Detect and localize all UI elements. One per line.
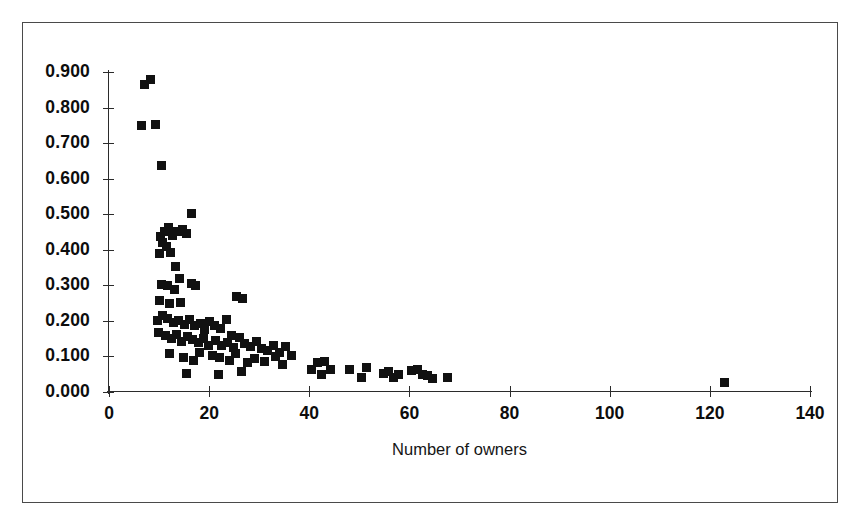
data-point-marker (216, 324, 225, 333)
data-point-marker (428, 374, 437, 383)
x-axis-title: Number of owners (109, 440, 810, 459)
data-point-marker (357, 373, 366, 382)
data-point-marker (287, 351, 296, 360)
x-axis-tick-label: 100 (575, 403, 645, 424)
data-point-marker (231, 349, 240, 358)
data-point-marker (146, 75, 155, 84)
scatter-plot-area (109, 72, 810, 392)
data-point-marker (182, 229, 191, 238)
y-axis-tick-label: 0.500 (24, 203, 90, 224)
data-point-marker (260, 357, 269, 366)
y-axis-tick-label: 0.800 (24, 97, 90, 118)
data-point-marker (195, 348, 204, 357)
data-point-marker (237, 367, 246, 376)
data-point-marker (165, 299, 174, 308)
data-point-marker (187, 209, 196, 218)
chart-figure: 0.0000.1000.2000.3000.4000.5000.6000.700… (0, 0, 856, 525)
x-axis-tick-label: 80 (475, 403, 545, 424)
x-axis-tick-label: 120 (675, 403, 745, 424)
data-point-marker (720, 378, 729, 387)
data-point-marker (170, 285, 179, 294)
data-point-marker (200, 325, 209, 334)
data-point-marker (189, 356, 198, 365)
data-point-marker (191, 281, 200, 290)
data-point-marker (326, 365, 335, 374)
data-point-marker (171, 262, 180, 271)
y-axis-tick-label: 0.600 (24, 168, 90, 189)
y-axis-tick-label: 0.700 (24, 132, 90, 153)
data-point-marker (175, 274, 184, 283)
data-point-marker (182, 369, 191, 378)
data-point-marker (317, 370, 326, 379)
x-axis-tick-label: 40 (274, 403, 344, 424)
data-point-marker (345, 365, 354, 374)
data-point-marker (166, 248, 175, 257)
x-axis-tick-label: 20 (174, 403, 244, 424)
data-point-marker (215, 353, 224, 362)
data-point-marker (137, 121, 146, 130)
data-point-marker (176, 298, 185, 307)
x-axis-tick-label: 0 (74, 403, 144, 424)
y-axis-tick-label: 0.100 (24, 345, 90, 366)
data-point-marker (155, 249, 164, 258)
data-point-marker (443, 373, 452, 382)
x-axis-tick (810, 386, 811, 397)
x-axis-tick-label: 60 (374, 403, 444, 424)
data-point-marker (238, 294, 247, 303)
data-point-marker (394, 370, 403, 379)
y-axis-tick-label: 0.000 (24, 381, 90, 402)
y-axis-tick-label: 0.900 (24, 61, 90, 82)
x-axis-tick-label: 140 (775, 403, 845, 424)
y-axis-tick-label: 0.300 (24, 274, 90, 295)
data-point-marker (155, 296, 164, 305)
data-point-marker (362, 363, 371, 372)
data-point-marker (250, 354, 259, 363)
data-point-marker (222, 315, 231, 324)
data-point-marker (157, 161, 166, 170)
data-point-marker (179, 353, 188, 362)
y-axis-tick-label: 0.400 (24, 239, 90, 260)
y-axis-tick-label: 0.200 (24, 310, 90, 331)
data-point-marker (214, 370, 223, 379)
data-point-marker (278, 360, 287, 369)
data-point-marker (151, 120, 160, 129)
data-point-marker (165, 349, 174, 358)
